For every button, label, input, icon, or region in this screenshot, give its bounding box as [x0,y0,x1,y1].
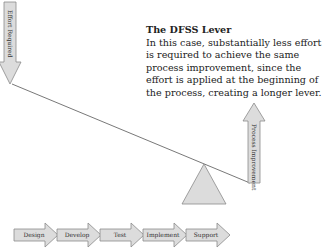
effort-required-arrow: Effort Required [0,2,21,84]
process-steps: Design Develop Test Implement Support [14,223,230,247]
process-step-label: Design [23,231,44,239]
process-improvement-arrow: Process Improvement [243,103,265,191]
lever-caption: The DFSS Lever In this case, substantial… [146,24,328,100]
process-step-label: Test [114,231,127,238]
process-step-implement: Implement [143,223,187,247]
process-step-design: Design [14,223,58,247]
caption-body: In this case, substantially less effort … [146,37,322,98]
process-step-develop: Develop [57,223,101,247]
process-step-test: Test [100,223,144,247]
process-improvement-label: Process Improvement [250,124,258,191]
process-step-label: Implement [147,231,180,239]
process-step-support: Support [186,223,230,247]
effort-required-label: Effort Required [6,10,14,58]
process-step-label: Develop [65,231,90,239]
process-step-label: Support [194,231,219,239]
caption-title: The DFSS Lever [146,24,328,37]
